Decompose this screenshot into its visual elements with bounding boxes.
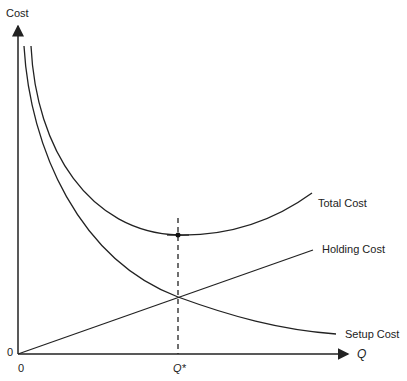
minimum-point	[176, 233, 181, 238]
x-axis-label: Q	[357, 347, 366, 361]
holding-cost-label: Holding Cost	[322, 243, 385, 255]
total-cost-label: Total Cost	[318, 197, 367, 209]
holding-cost-line	[18, 250, 313, 354]
eoq-diagram	[0, 0, 407, 381]
y-axis-label: Cost	[6, 7, 29, 19]
q-star-label: Q*	[173, 362, 186, 374]
setup-cost-curve	[24, 46, 336, 334]
origin-y-label: 0	[7, 346, 13, 358]
setup-cost-label: Setup Cost	[345, 328, 399, 340]
origin-x-label: 0	[18, 362, 24, 374]
